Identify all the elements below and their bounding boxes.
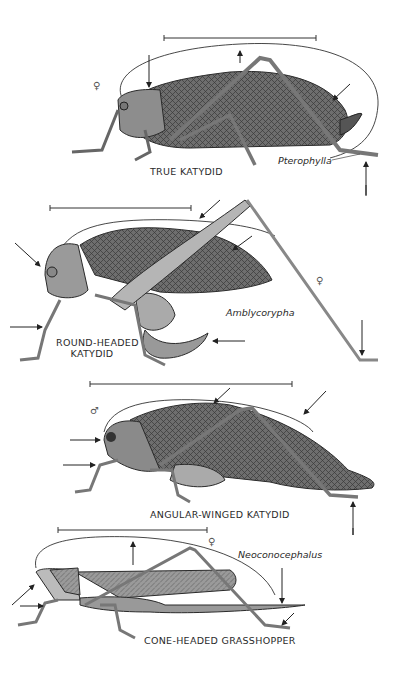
sex-symbol-round-headed-katydid: ♀ (316, 275, 323, 286)
label-angular-winged-katydid: ANGULAR-WINGED KATYDID (150, 509, 290, 520)
sex-symbol-cone-headed-grasshopper: ♀ (208, 536, 215, 547)
label-true-katydid: TRUE KATYDID (150, 166, 223, 177)
sex-symbol-angular-winged-katydid: ♂ (90, 405, 99, 416)
genus-amblycorypha: Amblycorypha (226, 307, 294, 318)
label-line-2: KATYDID (56, 348, 128, 359)
genus-pterophylla: Pterophylla (278, 155, 332, 166)
cone-headed-grasshopper-figure (12, 527, 353, 638)
label-line-1: ROUND-HEADED (56, 337, 128, 348)
true-katydid-figure (72, 35, 378, 196)
genus-neoconocephalus: Neoconocephalus (238, 549, 322, 560)
label-round-headed-katydid: ROUND-HEADED KATYDID (56, 337, 128, 359)
sex-symbol-true-katydid: ♀ (93, 80, 100, 91)
label-cone-headed-grasshopper: CONE-HEADED GRASSHOPPER (144, 635, 296, 646)
